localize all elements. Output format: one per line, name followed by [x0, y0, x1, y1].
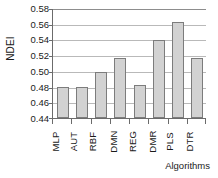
- y-axis-tick-label: 0.52: [17, 51, 49, 61]
- bars-layer: [53, 9, 206, 118]
- y-axis-tick-label: 0.44: [17, 114, 49, 124]
- y-axis-tick-mark: [49, 56, 53, 57]
- y-axis-tick-mark: [49, 25, 53, 26]
- y-axis-tick-label: 0.48: [17, 83, 49, 93]
- x-axis-category-label-text: DMR: [147, 130, 158, 152]
- plot-area: [52, 9, 206, 119]
- y-axis-tick-mark: [49, 40, 53, 41]
- bar: [172, 22, 184, 118]
- x-axis-category-label-text: REG: [127, 130, 138, 151]
- x-axis-category-label-text: DMN: [108, 130, 119, 152]
- y-axis-tick-label: 0.56: [17, 20, 49, 30]
- x-axis-category-label-text: MLP: [49, 131, 60, 151]
- x-axis-category-label-text: AUT: [68, 131, 79, 151]
- y-axis-tick-mark: [49, 103, 53, 104]
- y-axis-tick-mark: [49, 88, 53, 89]
- x-axis-title: Algorithms: [165, 160, 210, 171]
- bar: [95, 72, 107, 118]
- y-axis-tick-label: 0.58: [17, 4, 49, 14]
- bar: [153, 40, 165, 118]
- x-axis-category-label-text: PLS: [164, 132, 175, 151]
- bar-chart-figure: NDEI 0.580.560.540.520.500.480.460.44 ML…: [0, 0, 218, 178]
- y-axis-tick-label: 0.54: [17, 36, 49, 46]
- x-axis-category-label-text: DTR: [184, 131, 195, 151]
- bar: [57, 87, 69, 118]
- bar: [134, 85, 146, 118]
- bar: [76, 87, 88, 118]
- y-axis-title: NDEI: [2, 18, 18, 78]
- x-axis-category-labels: MLPAUTRBFDMNREGDMRPLSDTR: [52, 124, 206, 158]
- y-axis-tick-mark: [49, 72, 53, 73]
- bar: [114, 58, 126, 118]
- x-axis-category-label-text: RBF: [87, 131, 98, 151]
- x-axis-category-label: DTR: [179, 124, 213, 158]
- y-axis-tick-mark: [49, 9, 53, 10]
- y-axis-tick-label: 0.46: [17, 99, 49, 109]
- y-axis-tick-labels: 0.580.560.540.520.500.480.460.44: [17, 9, 49, 119]
- y-axis-tick-label: 0.50: [17, 67, 49, 77]
- bar: [191, 58, 203, 118]
- y-axis-title-text: NDEI: [5, 36, 16, 61]
